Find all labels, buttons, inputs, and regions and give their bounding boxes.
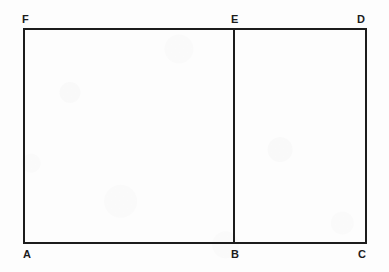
vertex-label-D: D [357,14,365,25]
geometry-diagram [0,0,389,272]
vertex-label-C: C [358,249,366,260]
vertex-label-A: A [23,249,31,260]
figure-canvas: F E D A B C [0,0,389,272]
vertex-label-E: E [231,14,239,25]
vertex-label-F: F [22,14,29,25]
vertex-label-B: B [231,249,239,260]
